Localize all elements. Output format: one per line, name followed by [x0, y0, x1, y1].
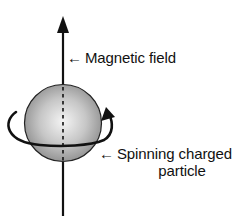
- diagram-canvas: [0, 0, 246, 224]
- spin-arrowhead-icon: [101, 107, 115, 121]
- left-arrow-icon: ←: [67, 49, 82, 66]
- field-arrowhead-icon: [57, 16, 69, 33]
- magnetic-field-text: Magnetic field: [85, 49, 176, 66]
- magnetic-field-label: ←Magnetic field: [67, 49, 176, 66]
- left-arrow-icon: ←: [99, 145, 114, 162]
- particle-label-line1: Spinning charged: [117, 145, 232, 162]
- particle-label-line2: particle: [99, 162, 232, 179]
- particle-label: ←Spinning charged particle: [99, 145, 232, 179]
